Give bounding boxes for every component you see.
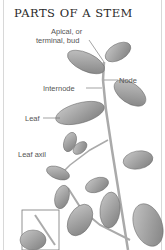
stem-illustration bbox=[0, 0, 165, 250]
label-apical-bud-line1: Apical, or bbox=[51, 27, 82, 36]
label-apical-bud-line2: terminal, bud bbox=[36, 36, 79, 45]
leaf-illustrations bbox=[45, 38, 165, 250]
label-node: Node bbox=[119, 76, 137, 85]
label-internode: Internode bbox=[43, 84, 75, 93]
label-leaf-axil: Leaf axil bbox=[18, 150, 46, 159]
label-leaf: Leaf bbox=[25, 114, 40, 123]
